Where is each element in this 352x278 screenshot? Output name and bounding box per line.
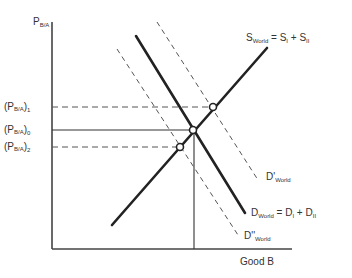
demand-low-label: D''World (244, 230, 271, 242)
x-axis-label: Good B (240, 256, 274, 267)
equilibrium-point-2 (177, 144, 184, 151)
price-label-1: (PB/A)1 (4, 101, 31, 113)
supply-curve-label: SWorld = SI + SII (246, 32, 310, 44)
price-label-2: (PB/A)2 (4, 141, 31, 153)
price-label-0: (PB/A)0 (4, 124, 31, 136)
demand-curve-label: DWorld = DI + DII (251, 207, 316, 219)
equilibrium-point-1 (210, 104, 217, 111)
supply-curve-world (112, 48, 267, 225)
demand-curve-world (136, 36, 245, 213)
equilibrium-point-0 (190, 127, 197, 134)
supply-demand-diagram: PB/A Good B (PB/A)1 (PB/A)0 (PB/A)2 SWor… (0, 0, 352, 278)
y-axis-label: PB/A (33, 16, 49, 28)
demand-high-label: D'World (266, 171, 291, 183)
demand-curve-low (117, 49, 238, 235)
